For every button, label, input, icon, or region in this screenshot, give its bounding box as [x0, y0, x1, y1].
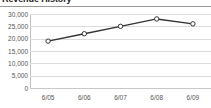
data-point-marker[interactable] — [82, 32, 86, 36]
y-tick-label: 30,000 — [0, 11, 28, 18]
x-tick-label: 6/08 — [140, 94, 174, 102]
series-path — [48, 19, 193, 41]
y-tick-label: 25,000 — [0, 23, 28, 30]
data-point-marker[interactable] — [46, 39, 50, 43]
y-tick-label: 20,000 — [0, 35, 28, 42]
x-tick-label: 6/07 — [104, 94, 138, 102]
x-tick-label: 6/06 — [67, 94, 101, 102]
series-line-revenue — [30, 14, 211, 88]
chart-title: Revenue History — [2, 0, 72, 4]
y-tick-label: 5,000 — [0, 72, 28, 79]
y-tick-label: 10,000 — [0, 60, 28, 67]
y-tick-label: 0 — [0, 85, 28, 92]
x-tick-label: 6/05 — [31, 94, 65, 102]
y-tick-label: 15,000 — [0, 48, 28, 55]
data-point-marker[interactable] — [118, 24, 122, 28]
data-point-marker[interactable] — [155, 17, 159, 21]
revenue-history-chart: Revenue History 05,00010,00015,00020,000… — [0, 0, 211, 108]
data-point-marker[interactable] — [191, 22, 195, 26]
x-tick-label: 6/09 — [176, 94, 210, 102]
title-divider — [0, 6, 211, 7]
plot-area — [30, 14, 211, 88]
gridline-0 — [30, 88, 211, 89]
